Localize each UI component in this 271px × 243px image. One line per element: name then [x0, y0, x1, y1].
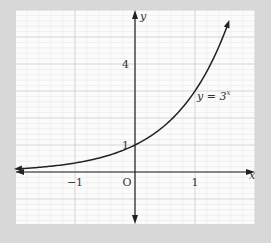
origin-label: O — [122, 176, 131, 189]
graph: −1114Oxyy = 3x — [0, 0, 271, 243]
y-tick-label: 4 — [122, 58, 129, 71]
y-axis-label: y — [139, 10, 147, 23]
x-tick-label: −1 — [67, 176, 83, 189]
x-axis-label: x — [249, 169, 256, 182]
curve-label-exponent: x — [226, 89, 230, 97]
x-tick-label: 1 — [192, 176, 199, 189]
curve-label: y = 3x — [196, 89, 230, 103]
y-tick-label: 1 — [122, 139, 129, 152]
